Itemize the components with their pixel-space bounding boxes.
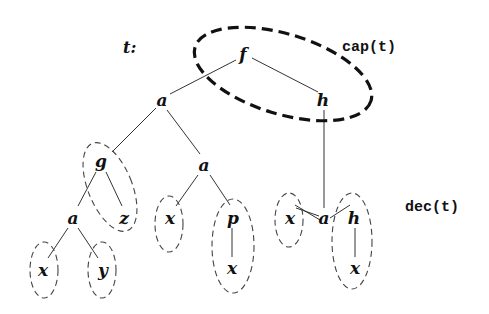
dec-ellipse-g-z xyxy=(72,135,148,239)
cap-label: cap(t) xyxy=(342,39,396,56)
node-a2: a xyxy=(198,155,209,175)
node-g: g xyxy=(95,151,107,171)
node-x3: x xyxy=(226,258,238,278)
node-f: f xyxy=(238,44,249,64)
node-z: z xyxy=(118,208,129,228)
node-x5: x xyxy=(349,258,361,278)
node-h1: h xyxy=(317,90,329,110)
node-x1: x xyxy=(37,260,49,280)
node-x2: x xyxy=(164,208,176,228)
tree-label: t: xyxy=(123,38,136,57)
node-h2: h xyxy=(348,208,360,228)
node-y: y xyxy=(97,260,109,280)
node-a4: a xyxy=(67,208,78,228)
tree-diagram: f a h g a a a z x y x p x x h x t: cap(t… xyxy=(0,0,489,314)
node-a3: a xyxy=(318,208,329,228)
node-x4: x xyxy=(284,208,296,228)
node-p: p xyxy=(227,208,239,228)
node-a1: a xyxy=(156,90,167,110)
dec-label: dec(t) xyxy=(405,199,459,216)
